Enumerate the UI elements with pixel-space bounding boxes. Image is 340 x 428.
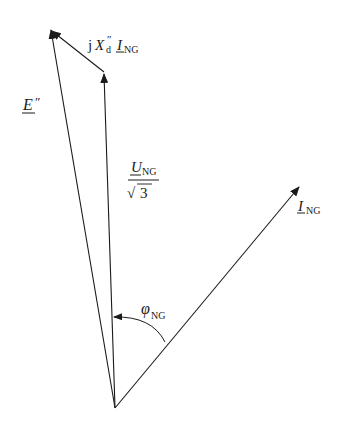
e-label: E ″	[22, 94, 40, 113]
i-phasor-line	[115, 187, 299, 408]
jx-label-i: I	[116, 37, 123, 53]
u-label: U NG √ 3	[127, 159, 159, 201]
jx-label-i-sub: NG	[124, 44, 138, 55]
phi-label-main: φ	[141, 300, 150, 318]
jx-label: j X ″ d I NG	[87, 33, 138, 55]
phi-label-sub: NG	[151, 310, 165, 321]
i-label-main: I	[297, 198, 304, 214]
i-label-sub: NG	[306, 205, 320, 216]
e-label-prime: ″	[35, 94, 40, 109]
jx-label-sub: d	[106, 44, 111, 55]
i-label: I NG	[297, 198, 320, 216]
e-phasor-line	[51, 30, 115, 408]
e-label-main: E	[22, 96, 33, 113]
u-label-root: √	[127, 185, 136, 201]
phi-label: φ NG	[141, 300, 165, 321]
u-phasor-line	[104, 74, 115, 408]
u-label-den: 3	[140, 185, 148, 201]
jx-label-j: j	[87, 37, 92, 53]
u-label-sub: NG	[142, 166, 156, 177]
phasor-diagram: E ″ j X ″ d I NG U NG √ 3 I NG φ NG	[0, 0, 340, 428]
jx-label-x: X	[94, 37, 105, 53]
